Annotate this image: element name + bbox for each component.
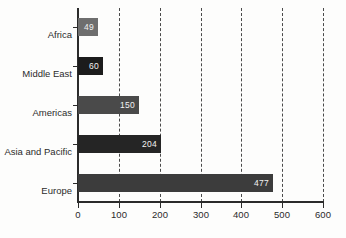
x-axis-tick-label: 200 <box>152 210 168 220</box>
bar-value-label: 60 <box>89 62 99 71</box>
bar: 204 <box>78 135 161 153</box>
x-axis-tick <box>160 203 161 208</box>
x-axis-tick-label: 300 <box>193 210 209 220</box>
bar-value-label: 477 <box>254 179 269 188</box>
x-axis-tick-label: 0 <box>75 210 80 220</box>
x-axis-tick-label: 600 <box>315 210 331 220</box>
gridline-600 <box>323 8 324 202</box>
bar: 150 <box>78 96 139 114</box>
bar-value-label: 204 <box>142 140 157 149</box>
gridline-300 <box>201 8 202 202</box>
x-axis-tick <box>78 203 79 208</box>
category-label: Africa <box>0 30 72 40</box>
x-axis-tick <box>282 203 283 208</box>
y-axis-tick <box>73 105 78 106</box>
category-label: Asia and Pacific <box>0 147 72 157</box>
x-axis-tick <box>119 203 120 208</box>
bar-chart: 4960150204477 AfricaMiddle EastAmericasA… <box>0 0 346 238</box>
y-axis-tick <box>73 183 78 184</box>
x-axis-tick <box>241 203 242 208</box>
x-axis-tick-label: 400 <box>233 210 249 220</box>
bar-row: 204 <box>78 135 161 153</box>
gridline-500 <box>282 8 283 202</box>
y-axis-tick <box>73 144 78 145</box>
x-axis-tick <box>201 203 202 208</box>
category-label: Europe <box>0 186 72 196</box>
y-axis-tick <box>73 27 78 28</box>
gridline-200 <box>160 8 161 202</box>
bar-row: 477 <box>78 174 273 192</box>
bar-value-label: 49 <box>84 23 94 32</box>
bar-row: 60 <box>78 57 103 75</box>
bar: 477 <box>78 174 273 192</box>
x-axis-tick-label: 100 <box>111 210 127 220</box>
bar-value-label: 150 <box>120 101 135 110</box>
y-axis-tick <box>73 66 78 67</box>
category-axis-labels: AfricaMiddle EastAmericasAsia and Pacifi… <box>0 8 72 202</box>
category-label: Middle East <box>0 69 72 79</box>
x-axis-tick <box>323 203 324 208</box>
bar: 49 <box>78 18 98 36</box>
bar: 60 <box>78 57 103 75</box>
category-label: Americas <box>0 108 72 118</box>
bar-row: 49 <box>78 18 98 36</box>
bar-row: 150 <box>78 96 139 114</box>
gridline-400 <box>241 8 242 202</box>
x-axis-tick-label: 500 <box>274 210 290 220</box>
